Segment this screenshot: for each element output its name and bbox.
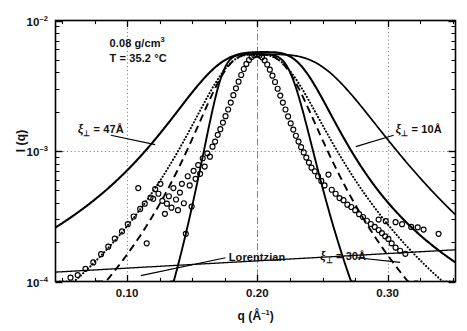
data-point bbox=[293, 133, 298, 138]
data-point bbox=[393, 220, 398, 225]
series-fit-dashed bbox=[96, 54, 419, 281]
data-point bbox=[187, 183, 192, 188]
data-point bbox=[376, 217, 381, 222]
data-point bbox=[291, 127, 296, 132]
data-point bbox=[278, 93, 283, 98]
x-axis-tick-030: 0.30 bbox=[376, 287, 399, 299]
curve-label-xi-47: ξ⊥ = 47Å bbox=[78, 122, 124, 138]
data-point bbox=[223, 114, 228, 119]
data-point bbox=[177, 190, 182, 195]
x-axis-title: q (Å–1) bbox=[238, 308, 274, 323]
data-point bbox=[393, 245, 398, 250]
data-point bbox=[231, 93, 236, 98]
data-point bbox=[236, 79, 241, 84]
data-point bbox=[136, 186, 141, 191]
data-point bbox=[326, 172, 331, 177]
data-point bbox=[171, 186, 176, 191]
data-point bbox=[156, 191, 161, 196]
data-point bbox=[306, 160, 311, 165]
data-point bbox=[389, 241, 394, 246]
scatter-group bbox=[68, 52, 441, 280]
curve-label-lorentzian: Lorentzian bbox=[229, 251, 286, 263]
data-point bbox=[196, 163, 201, 168]
data-point bbox=[353, 208, 358, 213]
chart-canvas bbox=[0, 0, 467, 331]
data-point bbox=[400, 222, 405, 227]
chart-figure: 10–2 10–3 10–4 0.10 0.20 0.30 I (q) q (Å… bbox=[0, 0, 467, 331]
data-point bbox=[164, 201, 169, 206]
annotation-temperature: T = 35.2 °C bbox=[110, 52, 167, 64]
data-point bbox=[275, 86, 280, 91]
data-point bbox=[218, 127, 223, 132]
data-point bbox=[169, 205, 174, 210]
data-point bbox=[191, 168, 196, 173]
annotation-density: 0.08 g/cm3 bbox=[110, 35, 165, 49]
data-point bbox=[228, 100, 233, 105]
data-point bbox=[220, 120, 225, 125]
data-point bbox=[312, 169, 317, 174]
data-point bbox=[202, 164, 207, 169]
data-point bbox=[162, 211, 167, 216]
data-point bbox=[273, 79, 278, 84]
y-axis-tick-1e-3: 10–3 bbox=[27, 144, 49, 158]
series-xi-perp-47a bbox=[56, 52, 456, 262]
data-point bbox=[213, 139, 218, 144]
data-point bbox=[329, 187, 334, 192]
data-point bbox=[288, 121, 293, 126]
data-point bbox=[286, 114, 291, 119]
data-point bbox=[158, 181, 163, 186]
data-point bbox=[304, 155, 309, 160]
data-point bbox=[75, 273, 80, 278]
data-point bbox=[415, 225, 420, 230]
data-point bbox=[436, 231, 441, 236]
data-point bbox=[175, 208, 180, 213]
data-point bbox=[181, 201, 186, 206]
curve-label-xi-30: ξ⊥ = 30Å bbox=[320, 249, 366, 265]
data-point bbox=[166, 194, 171, 199]
data-point bbox=[210, 144, 215, 149]
x-axis-tick-010: 0.10 bbox=[116, 287, 139, 299]
y-axis-tick-1e-4: 10–4 bbox=[27, 275, 49, 289]
data-point bbox=[301, 150, 306, 155]
data-point bbox=[333, 191, 338, 196]
y-axis-title: I (q) bbox=[14, 129, 28, 152]
data-point bbox=[265, 62, 270, 67]
data-point bbox=[283, 107, 288, 112]
data-point bbox=[241, 67, 246, 72]
data-point bbox=[299, 145, 304, 150]
data-point bbox=[215, 132, 220, 137]
data-point bbox=[270, 73, 275, 78]
data-point bbox=[296, 139, 301, 144]
data-point bbox=[267, 67, 272, 72]
data-point bbox=[233, 86, 238, 91]
data-point bbox=[179, 181, 184, 186]
data-point bbox=[185, 174, 190, 179]
data-point bbox=[144, 241, 149, 246]
data-point bbox=[174, 197, 179, 202]
y-axis-tick-1e-2: 10–2 bbox=[27, 14, 49, 28]
data-point bbox=[68, 275, 73, 280]
x-axis-tick-020: 0.20 bbox=[246, 287, 269, 299]
data-point bbox=[421, 227, 426, 232]
data-point bbox=[280, 100, 285, 105]
data-point bbox=[226, 107, 231, 112]
curve-label-xi-10: ξ⊥ = 10Å bbox=[396, 122, 442, 138]
data-point bbox=[239, 73, 244, 78]
